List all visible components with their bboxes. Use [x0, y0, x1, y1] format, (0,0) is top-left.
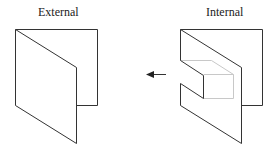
- internal-front-panel: [181, 30, 242, 144]
- internal-fold-shape: [181, 30, 263, 144]
- external-front-panel: [16, 30, 77, 144]
- internal-back-panel: [181, 30, 263, 106]
- fold-diagram: [0, 0, 272, 152]
- arrow-left-icon: [146, 71, 166, 78]
- external-fold-shape: [16, 30, 98, 144]
